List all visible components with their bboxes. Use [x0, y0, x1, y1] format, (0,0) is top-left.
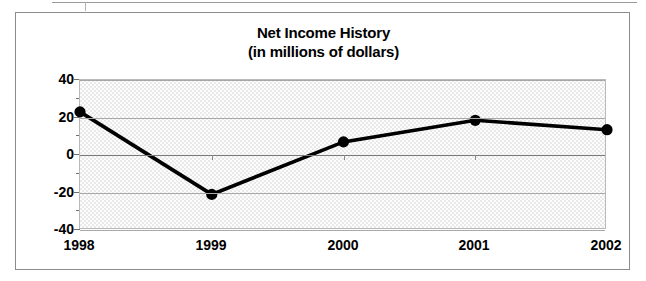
fragment-column-divider [85, 2, 86, 11]
y-axis-labels: 40200-20-40 [26, 79, 74, 229]
chart-frame: Net Income History (in millions of dolla… [15, 12, 630, 270]
x-axis-label-2001: 2001 [434, 237, 514, 253]
data-point-2001 [470, 115, 481, 126]
x-axis-labels: 19981999200020012002 [79, 237, 606, 257]
chart-title-block: Net Income History (in millions of dolla… [16, 23, 631, 61]
gridline-40 [80, 80, 605, 81]
y-axis-label-neg20: -20 [28, 185, 74, 199]
chart-subtitle: (in millions of dollars) [16, 42, 631, 61]
gridline-neg20 [80, 193, 605, 194]
series-line-net-income [80, 112, 607, 195]
data-point-1998 [74, 106, 85, 117]
x-tick-1999 [212, 155, 213, 160]
gridline-0 [80, 155, 605, 156]
gridline-neg40 [80, 230, 605, 231]
y-axis-label-20: 20 [28, 110, 74, 124]
x-axis-label-2002: 2002 [566, 237, 646, 253]
scanned-table-fragment [52, 2, 637, 11]
gridline-20 [80, 118, 605, 119]
y-axis-label-40: 40 [28, 72, 74, 86]
x-axis-label-1998: 1998 [39, 237, 119, 253]
y-axis-label-neg40: -40 [28, 222, 74, 236]
data-point-2002 [601, 124, 612, 135]
fragment-horizontal-rule [52, 2, 637, 3]
data-point-2000 [338, 136, 349, 147]
plot-area [79, 79, 606, 229]
data-point-1999 [206, 189, 217, 200]
x-tick-2001 [475, 155, 476, 160]
y-axis-label-0: 0 [28, 147, 74, 161]
chart-title: Net Income History [16, 23, 631, 42]
x-tick-2000 [344, 155, 345, 160]
x-axis-label-2000: 2000 [303, 237, 383, 253]
x-axis-label-1999: 1999 [171, 237, 251, 253]
